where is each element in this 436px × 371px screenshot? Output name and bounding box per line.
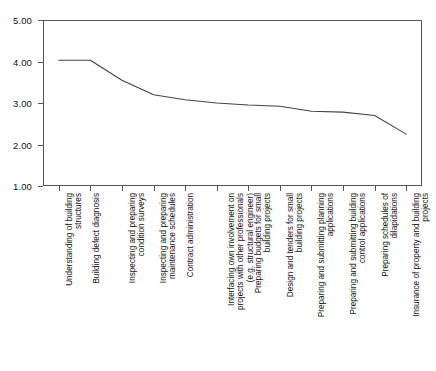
series-polyline xyxy=(59,60,406,134)
data-series-line xyxy=(0,0,436,371)
chart-figure: 5.004.003.002.001.00 Understanding of bu… xyxy=(0,0,436,371)
